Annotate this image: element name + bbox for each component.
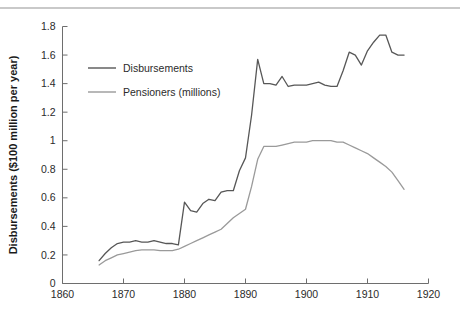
y-tick-label: 0.8 bbox=[41, 163, 56, 175]
y-axis-title: Disbursements ($100 million per year) bbox=[7, 55, 19, 254]
x-tick-label: 1880 bbox=[173, 288, 197, 300]
x-tick-label: 1920 bbox=[417, 288, 441, 300]
chart-figure: Disbursements ($100 million per year) 18… bbox=[0, 0, 460, 316]
y-tick-label: 0.6 bbox=[41, 191, 56, 203]
y-tick-label: 1.6 bbox=[41, 49, 56, 61]
legend-label-disbursements: Disbursements bbox=[123, 62, 193, 74]
line-chart: Disbursements ($100 million per year) 18… bbox=[0, 0, 460, 316]
y-tick-label: 1.2 bbox=[41, 106, 56, 118]
x-tick-label: 1910 bbox=[356, 288, 380, 300]
y-tick-label: 1.8 bbox=[41, 20, 56, 32]
x-axis-ticks: 1860187018801890190019101920 bbox=[51, 279, 441, 300]
y-tick-label: 1 bbox=[50, 134, 56, 146]
legend-label-pensioners: Pensioners (millions) bbox=[123, 86, 220, 98]
series-line-pensioners bbox=[99, 141, 404, 265]
y-tick-label: 0.2 bbox=[41, 249, 56, 261]
y-tick-label: 0 bbox=[50, 277, 56, 289]
x-tick-label: 1900 bbox=[295, 288, 319, 300]
y-tick-label: 0.4 bbox=[41, 220, 56, 232]
y-axis-ticks: 00.20.40.60.811.21.41.61.8 bbox=[41, 20, 68, 289]
chart-legend: DisbursementsPensioners (millions) bbox=[88, 62, 220, 98]
x-tick-label: 1870 bbox=[112, 288, 136, 300]
x-tick-label: 1890 bbox=[234, 288, 258, 300]
x-tick-label: 1860 bbox=[51, 288, 75, 300]
y-axis-title-text: Disbursements ($100 million per year) bbox=[7, 55, 19, 254]
y-tick-label: 1.4 bbox=[41, 77, 56, 89]
